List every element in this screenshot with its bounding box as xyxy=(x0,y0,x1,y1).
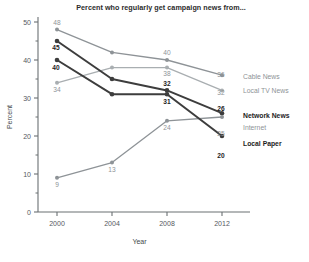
series-layer xyxy=(55,28,225,180)
series-line-internet xyxy=(57,117,222,178)
series-label-cable-news: Cable News xyxy=(243,73,280,80)
data-point-label: 32 xyxy=(163,80,171,87)
y-axis-title: Percent xyxy=(6,105,13,129)
chart-container: Percent who regularly get campaign news … xyxy=(0,0,309,262)
data-point-label: 38 xyxy=(163,70,171,77)
data-point-label: 13 xyxy=(108,166,116,173)
data-point xyxy=(165,92,170,97)
series-label-internet: Internet xyxy=(243,124,266,131)
data-point xyxy=(165,58,169,62)
data-point-label: 40 xyxy=(163,49,171,56)
series-line-local-tv-news xyxy=(57,68,222,91)
data-point xyxy=(55,39,60,44)
chart-plot-area: 010203040502000200420082012 484034384532… xyxy=(0,0,309,262)
data-point-label: 31 xyxy=(163,98,171,105)
data-point xyxy=(110,92,115,97)
y-tick-label: 10 xyxy=(23,171,31,178)
data-point xyxy=(55,58,60,63)
x-axis-title: Year xyxy=(132,238,147,245)
y-tick-label: 0 xyxy=(27,209,31,216)
data-point xyxy=(110,66,114,70)
y-tick-label: 40 xyxy=(23,57,31,64)
data-point xyxy=(165,119,169,123)
x-tick-label: 2004 xyxy=(104,220,120,227)
series-label-local-tv-news: Local TV News xyxy=(243,87,289,94)
series-end-value: 32 xyxy=(217,89,225,96)
y-tick-label: 20 xyxy=(23,133,31,140)
data-point-label: 9 xyxy=(55,181,59,188)
series-label-network-news: Network News xyxy=(243,112,290,119)
data-point xyxy=(55,28,59,32)
data-point xyxy=(110,77,115,82)
series-end-value: 36 xyxy=(217,71,225,78)
x-tick-label: 2008 xyxy=(159,220,175,227)
series-line-cable-news xyxy=(57,30,222,76)
data-point-label: 45 xyxy=(52,44,60,51)
series-end-value: 20 xyxy=(217,152,225,159)
series-legend-layer: 36Cable News32Local TV News26Network New… xyxy=(217,71,289,159)
x-tick-label: 2012 xyxy=(214,220,230,227)
data-point xyxy=(55,176,59,180)
data-point-label: 34 xyxy=(53,86,61,93)
data-point xyxy=(55,81,59,85)
series-line-local-paper xyxy=(57,60,222,136)
data-point-label: 40 xyxy=(52,64,60,71)
y-tick-label: 30 xyxy=(23,95,31,102)
data-point xyxy=(110,161,114,165)
series-end-value: 25 xyxy=(217,130,225,137)
series-line-network-news xyxy=(57,41,222,113)
data-point-label: 24 xyxy=(163,124,171,131)
data-point xyxy=(220,115,224,119)
data-point-label: 48 xyxy=(53,19,61,26)
data-point xyxy=(165,66,169,70)
data-point xyxy=(110,50,114,54)
x-tick-label: 2000 xyxy=(49,220,65,227)
series-label-local-paper: Local Paper xyxy=(243,140,282,148)
series-end-value: 26 xyxy=(217,105,225,112)
y-tick-label: 50 xyxy=(23,19,31,26)
